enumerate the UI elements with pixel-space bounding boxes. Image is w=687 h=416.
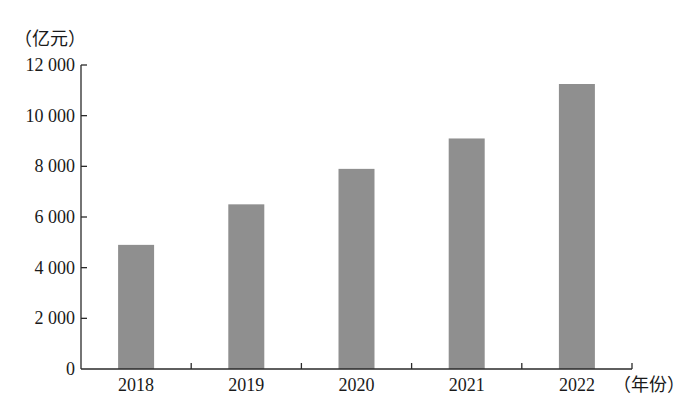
x-tick-label: 2019 [228,375,264,395]
y-tick-label: 10 000 [26,106,76,126]
bar-2019 [228,204,264,369]
y-axis: 02 0004 0006 0008 00010 00012 000 [26,55,88,379]
bar-chart: （亿元） 02 0004 0006 0008 00010 00012 000 2… [0,0,687,416]
x-tick-label: 2021 [449,375,485,395]
bar-2022 [559,84,595,369]
bar-2018 [118,245,154,369]
x-tick-label: 2020 [339,375,375,395]
bars [118,84,595,369]
x-tick-label: 2018 [118,375,154,395]
y-tick-label: 6 000 [35,207,76,227]
bar-2021 [449,138,485,369]
x-tick-label: 2022 [559,375,595,395]
bar-2020 [339,169,375,369]
x-axis-unit-label: （年份） [613,374,685,395]
y-tick-label: 0 [66,359,75,379]
y-tick-label: 4 000 [35,258,76,278]
y-tick-label: 2 000 [35,308,76,328]
y-tick-label: 8 000 [35,156,76,176]
y-tick-label: 12 000 [26,55,76,75]
y-axis-unit-label: （亿元） [14,28,86,49]
